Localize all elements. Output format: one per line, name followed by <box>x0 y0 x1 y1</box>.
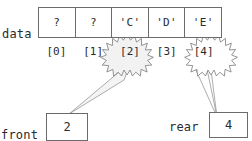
rear-pointer-box: 4 <box>209 112 248 138</box>
rear-pointer-label: rear <box>169 120 199 134</box>
array-index-0: [0] <box>38 45 75 63</box>
array-index-3: [3] <box>148 45 185 63</box>
array-index-row: [0] [1] [2] [3] [4] <box>38 45 222 63</box>
array-cell-0: ? <box>39 8 76 37</box>
array-cell-2: 'C' <box>112 8 149 37</box>
front-pointer-label: front <box>1 128 38 141</box>
array-index-1: [1] <box>75 45 112 63</box>
array-container: ? ? 'C' 'D' 'E' <box>38 7 222 38</box>
diagram-canvas: data ? ? 'C' 'D' 'E' [0] [1] [2] [3] [4]… <box>0 0 252 141</box>
array-cell-3: 'D' <box>149 8 186 37</box>
array-index-4: [4] <box>185 45 222 63</box>
front-pointer-box: 2 <box>46 113 88 141</box>
array-index-2: [2] <box>112 45 149 63</box>
array-cell-4: 'E' <box>185 8 221 37</box>
array-cell-1: ? <box>76 8 113 37</box>
